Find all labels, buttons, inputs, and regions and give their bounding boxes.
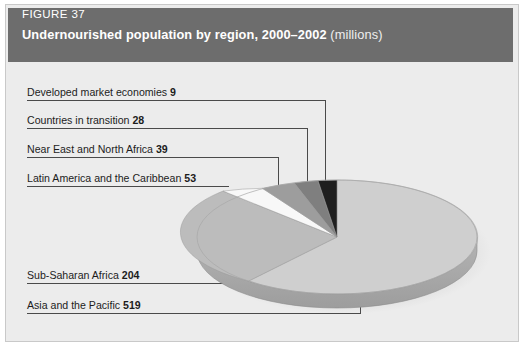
label-value-asia-and-the-pacific: 519 bbox=[123, 299, 141, 311]
label-latin-america-caribbean: Latin America and the Caribbean 53 bbox=[27, 172, 196, 184]
label-text-countries-in-transition: Countries in transition bbox=[27, 114, 129, 126]
figure-panel: FIGURE 37 Undernourished population by r… bbox=[0, 0, 524, 347]
label-text-sub-saharan-africa: Sub-Saharan Africa bbox=[27, 269, 119, 281]
label-asia-and-the-pacific: Asia and the Pacific 519 bbox=[27, 299, 141, 311]
label-developed-market-economies: Developed market economies 9 bbox=[27, 86, 176, 98]
label-text-near-east-north-africa: Near East and North Africa bbox=[27, 143, 153, 155]
label-text-asia-and-the-pacific: Asia and the Pacific bbox=[27, 299, 120, 311]
label-countries-in-transition: Countries in transition 28 bbox=[27, 114, 144, 126]
label-value-countries-in-transition: 28 bbox=[132, 114, 144, 126]
label-value-latin-america-caribbean: 53 bbox=[184, 172, 196, 184]
label-value-sub-saharan-africa: 204 bbox=[122, 269, 140, 281]
label-value-developed-market-economies: 9 bbox=[170, 86, 176, 98]
label-text-latin-america-caribbean: Latin America and the Caribbean bbox=[27, 172, 181, 184]
label-value-near-east-north-africa: 39 bbox=[156, 143, 168, 155]
label-sub-saharan-africa: Sub-Saharan Africa 204 bbox=[27, 269, 140, 281]
label-text-developed-market-economies: Developed market economies bbox=[27, 86, 167, 98]
label-near-east-north-africa: Near East and North Africa 39 bbox=[27, 143, 168, 155]
